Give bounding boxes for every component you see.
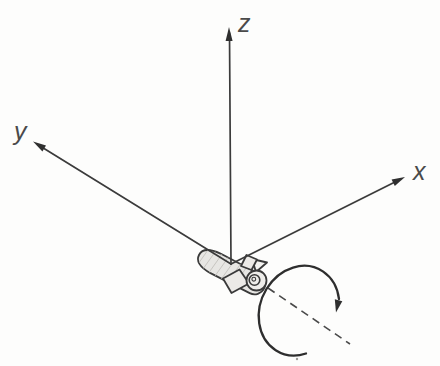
y-axis-arrowhead xyxy=(33,142,46,152)
x-axis-label: x xyxy=(412,157,427,185)
z-axis-arrowhead xyxy=(226,27,233,41)
z-axis-line xyxy=(230,33,232,264)
coordinate-diagram: z y x xyxy=(0,0,440,366)
z-axis-label: z xyxy=(237,9,251,37)
rotation-arrow-arc xyxy=(259,266,339,356)
rotation-arrow-arrowhead xyxy=(335,299,343,312)
figure-canvas: z y x xyxy=(0,0,440,366)
x-axis-line xyxy=(231,181,398,265)
x-axis-arrowhead xyxy=(392,177,405,186)
y-axis-label: y xyxy=(12,117,28,145)
print-speck xyxy=(296,358,298,360)
y-axis-line xyxy=(40,146,231,264)
